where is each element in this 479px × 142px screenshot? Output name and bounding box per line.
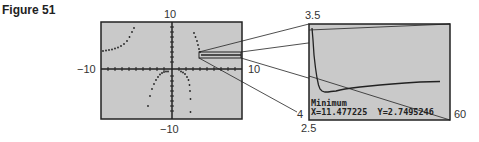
minimum-readout: Minimum X=11.477225 Y=2.7495246 bbox=[311, 99, 434, 117]
readout-x: X=11.477225 bbox=[311, 107, 367, 117]
figure-graphics bbox=[0, 0, 479, 142]
readout-values: X=11.477225 Y=2.7495246 bbox=[311, 108, 434, 117]
right-ymax-label: 3.5 bbox=[305, 9, 320, 21]
left-graph-screen bbox=[101, 22, 242, 119]
readout-y: Y=2.7495246 bbox=[378, 107, 434, 117]
left-xmax-label: 10 bbox=[248, 63, 260, 75]
left-ymin-label: −10 bbox=[160, 123, 179, 135]
left-ymax-label: 10 bbox=[164, 8, 176, 20]
right-xmin-label: 4 bbox=[297, 108, 303, 120]
right-ymin-label: 2.5 bbox=[301, 122, 316, 134]
left-xmin-label: −10 bbox=[77, 63, 96, 75]
right-xmax-label: 60 bbox=[454, 108, 466, 120]
